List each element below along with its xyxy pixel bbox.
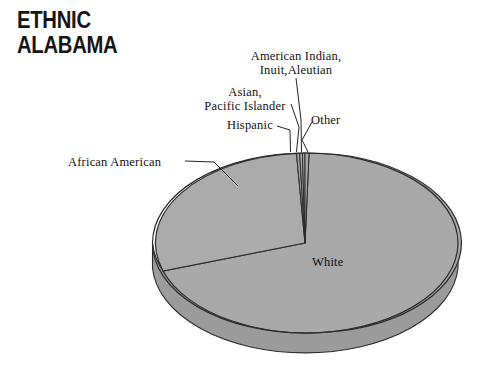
label-asian-pacific-islander: Asian, Pacific Islander [193, 86, 297, 113]
label-african-american: African American [68, 156, 184, 170]
label-white: White [312, 256, 372, 270]
chart-page: ETHNIC ALABAMA [0, 0, 479, 378]
leader-hispanic [277, 126, 291, 152]
label-other: Other [311, 114, 371, 128]
label-american-indian: American Indian, Inuit,Aleutian [238, 50, 354, 77]
pie-top-face [153, 153, 462, 333]
label-hispanic: Hispanic [201, 119, 273, 133]
